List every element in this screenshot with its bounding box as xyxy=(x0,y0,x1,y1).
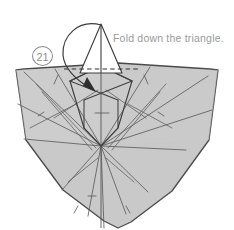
shield-right-panel xyxy=(101,66,218,146)
instruction-text: Fold down the triangle. xyxy=(113,32,224,45)
step-number-badge: 21 xyxy=(32,46,53,66)
origami-diagram-canvas: 21 Fold down the triangle. xyxy=(0,0,234,230)
